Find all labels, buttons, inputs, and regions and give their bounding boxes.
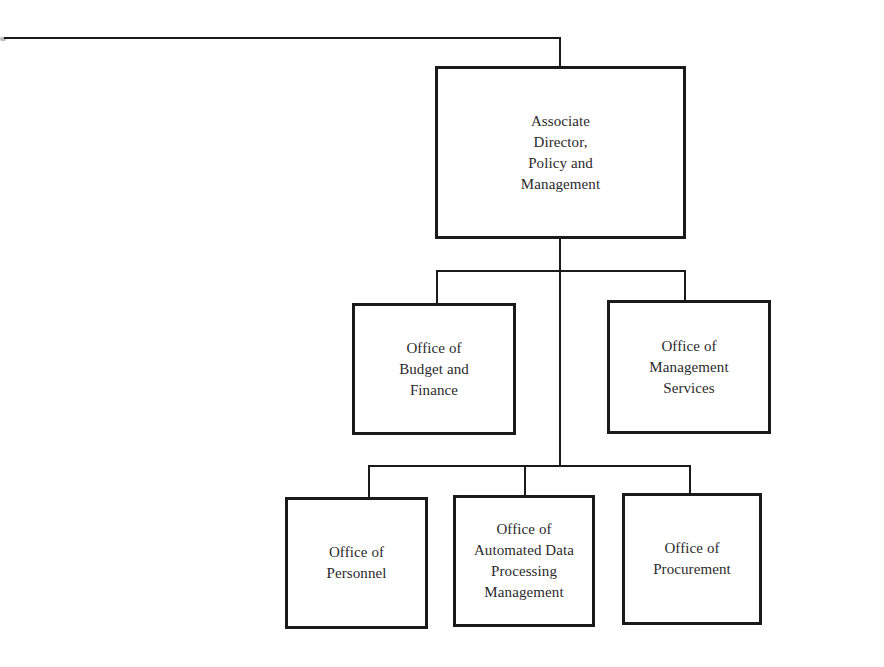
row1-drop-right <box>684 270 686 301</box>
incoming-connector-vertical <box>559 37 561 68</box>
row1-drop-left <box>436 270 438 304</box>
row2-drop-right <box>689 465 691 494</box>
box-associate-director: Associate Director, Policy and Managemen… <box>435 66 686 239</box>
box-procurement: Office of Procurement <box>622 493 762 625</box>
row2-drop-left <box>368 465 370 498</box>
incoming-connector-horizontal <box>4 37 560 39</box>
box-label: Office of Personnel <box>326 542 386 584</box>
box-automated-data-processing: Office of Automated Data Processing Mana… <box>453 495 595 627</box>
box-label: Associate Director, Policy and Managemen… <box>521 111 600 195</box>
box-budget-finance: Office of Budget and Finance <box>352 303 516 435</box>
box-label: Office of Budget and Finance <box>399 338 469 401</box>
box-label: Office of Management Services <box>649 336 728 399</box>
box-personnel: Office of Personnel <box>285 497 428 629</box>
row2-bracket <box>368 465 691 467</box>
box-management-services: Office of Management Services <box>607 300 771 434</box>
row2-drop-middle <box>524 465 526 496</box>
trunk-line <box>559 238 561 467</box>
row1-bracket <box>436 270 686 272</box>
box-label: Office of Procurement <box>653 538 731 580</box>
box-label: Office of Automated Data Processing Mana… <box>474 519 574 603</box>
